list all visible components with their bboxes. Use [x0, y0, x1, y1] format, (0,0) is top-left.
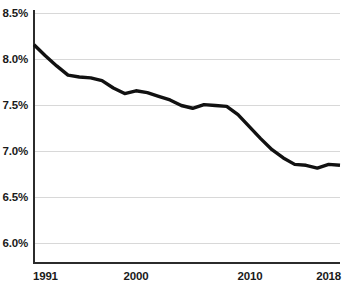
y-tick-label-5: 6.0% — [3, 237, 28, 249]
axes — [33, 10, 340, 263]
x-tick-label-1: 2000 — [124, 270, 149, 282]
gridlines — [34, 14, 340, 244]
line-chart: 8.5% 8.0% 7.5% 7.0% 6.5% 6.0% 1991 2000 … — [0, 0, 351, 287]
x-axis-tick-labels: 1991 2000 2010 2018 — [33, 270, 342, 282]
y-tick-label-1: 8.0% — [3, 53, 28, 65]
x-tick-label-3: 2018 — [316, 270, 342, 282]
chart-canvas: 8.5% 8.0% 7.5% 7.0% 6.5% 6.0% 1991 2000 … — [0, 0, 351, 287]
y-tick-label-0: 8.5% — [3, 7, 28, 19]
y-tick-label-3: 7.0% — [3, 145, 28, 157]
y-axis-tick-labels: 8.5% 8.0% 7.5% 7.0% 6.5% 6.0% — [3, 7, 28, 249]
x-tick-label-0: 1991 — [33, 270, 59, 282]
y-tick-label-4: 6.5% — [3, 191, 28, 203]
x-tick-label-2: 2010 — [238, 270, 263, 282]
data-series-line — [34, 45, 340, 168]
y-tick-label-2: 7.5% — [3, 99, 28, 111]
